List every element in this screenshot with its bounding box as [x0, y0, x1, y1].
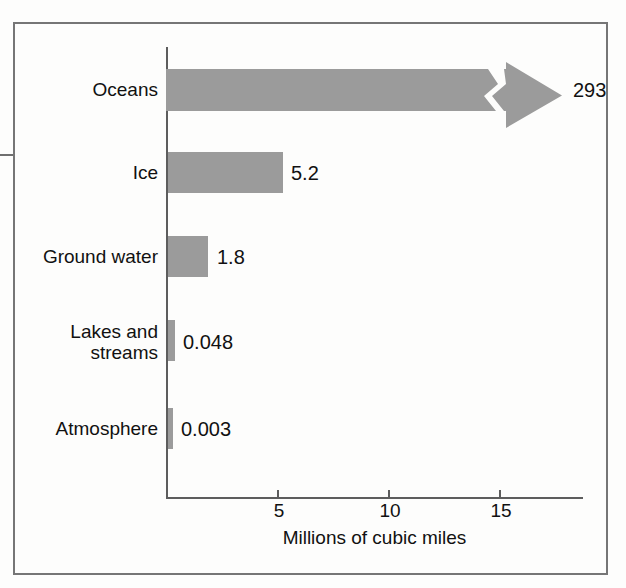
x-tick-15 [499, 490, 501, 498]
bar-value-oceans: 293 [573, 79, 606, 102]
x-tick-5 [277, 490, 279, 498]
x-axis-line [166, 497, 583, 499]
bar-ground-water [168, 236, 208, 277]
x-tick-label-5: 5 [259, 500, 299, 522]
x-axis-title: Millions of cubic miles [166, 527, 583, 549]
category-label-ground-water-wrap: Ground water [8, 246, 158, 267]
bar-lakes-and-streams [168, 320, 175, 361]
category-label-ice: Ice [8, 162, 158, 183]
bar-value-ice: 5.2 [291, 162, 319, 185]
category-label-atmosphere: Atmosphere [8, 418, 158, 439]
x-tick-label-15: 15 [481, 500, 521, 522]
category-label-ice-wrap: Ice [8, 162, 158, 183]
chart-page: 5 10 15 Millions of cubic miles Oceans 2… [0, 0, 626, 588]
category-label-ground-water: Ground water [8, 246, 158, 267]
oceans-arrow-bar [166, 58, 566, 133]
category-label-atmosphere-wrap: Atmosphere [8, 418, 158, 439]
bar-atmosphere [168, 408, 173, 449]
bar-value-lakes-and-streams: 0.048 [183, 331, 233, 354]
category-label-oceans: Oceans [8, 79, 158, 100]
x-tick-label-10: 10 [370, 500, 410, 522]
category-label-lakes-and-streams: Lakes and streams [8, 321, 158, 363]
bar-ice [168, 152, 283, 193]
bar-value-ground-water: 1.8 [217, 246, 245, 269]
x-tick-10 [388, 490, 390, 498]
category-label-lakes-and-streams-wrap: Lakes and streams [8, 321, 158, 363]
category-label-oceans-wrap: Oceans [8, 79, 158, 100]
plot-area: 5 10 15 Millions of cubic miles Oceans 2… [0, 0, 626, 588]
bar-value-atmosphere: 0.003 [181, 418, 231, 441]
